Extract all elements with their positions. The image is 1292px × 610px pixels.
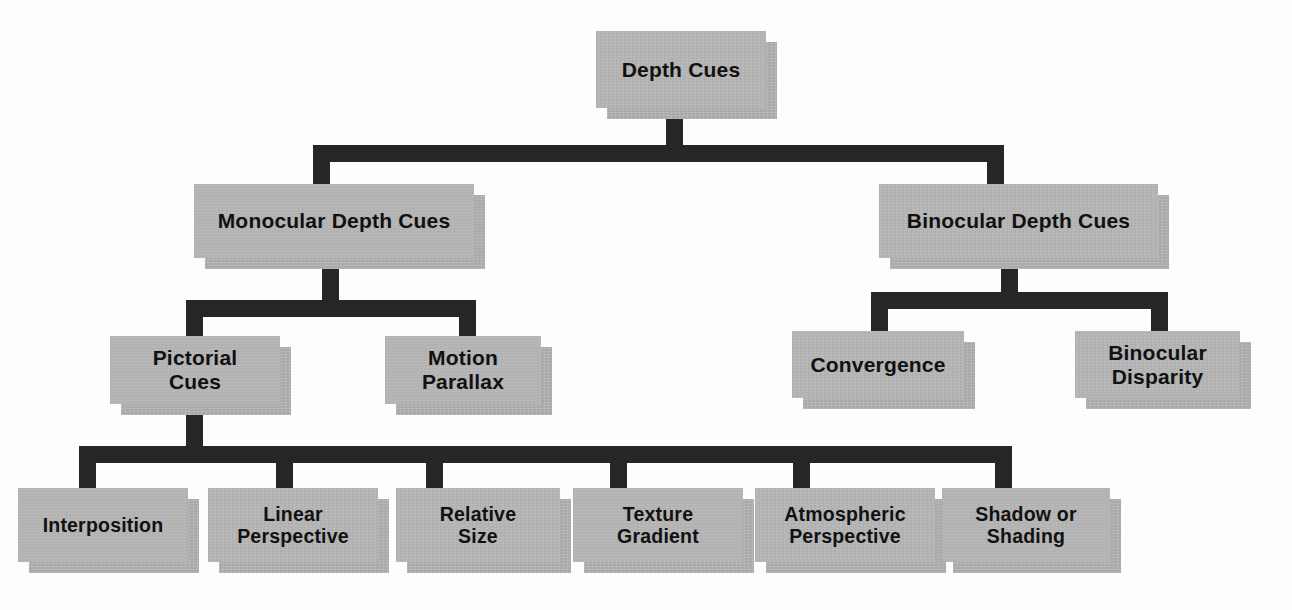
node-binocular-disparity[interactable]: Binocular Disparity [1075, 331, 1240, 398]
node-label: Monocular Depth Cues [212, 209, 457, 233]
node-face: Binocular Disparity [1075, 331, 1240, 398]
connector-binocular-bus [871, 292, 1168, 309]
node-label: Relative Size [434, 503, 522, 547]
node-face: Depth Cues [596, 31, 766, 108]
node-pictorial-cues[interactable]: Pictorial Cues [110, 336, 280, 404]
node-face: Atmospheric Perspective [755, 488, 935, 562]
node-face: Texture Gradient [573, 488, 743, 562]
node-label: Motion Parallax [416, 346, 510, 393]
node-face: Motion Parallax [385, 336, 541, 404]
node-label: Binocular Depth Cues [901, 209, 1136, 233]
connector-level1-bus [313, 145, 1004, 162]
node-interposition[interactable]: Interposition [18, 488, 188, 562]
connector-pictorial-to-atmospheric-perspective [793, 446, 810, 488]
node-motion-parallax[interactable]: Motion Parallax [385, 336, 541, 404]
connector-pictorial-to-linear-perspective [276, 446, 293, 488]
node-face: Relative Size [396, 488, 560, 562]
node-relative-size[interactable]: Relative Size [396, 488, 560, 562]
node-linear-perspective[interactable]: Linear Perspective [208, 488, 378, 562]
node-depth-cues[interactable]: Depth Cues [596, 31, 766, 108]
node-face: Binocular Depth Cues [879, 184, 1158, 258]
node-face: Convergence [792, 331, 964, 398]
node-label: Pictorial Cues [147, 346, 244, 393]
node-face: Linear Perspective [208, 488, 378, 562]
node-face: Interposition [18, 488, 188, 562]
node-face: Monocular Depth Cues [194, 184, 474, 258]
node-convergence[interactable]: Convergence [792, 331, 964, 398]
depth-cues-diagram: Depth Cues Monocular Depth Cues Binocula… [0, 0, 1292, 610]
connector-pictorial-to-texture-gradient [610, 446, 627, 488]
node-atmospheric-perspective[interactable]: Atmospheric Perspective [755, 488, 935, 562]
node-label: Shadow or Shading [969, 503, 1082, 547]
node-label: Convergence [804, 353, 951, 377]
connector-pictorial-to-shadow-or-shading [995, 446, 1012, 488]
node-label: Interposition [37, 514, 170, 536]
node-label: Texture Gradient [611, 503, 705, 547]
node-label: Depth Cues [616, 58, 747, 82]
node-texture-gradient[interactable]: Texture Gradient [573, 488, 743, 562]
node-label: Binocular Disparity [1102, 341, 1213, 388]
node-face: Shadow or Shading [942, 488, 1110, 562]
node-label: Linear Perspective [231, 503, 355, 547]
node-label: Atmospheric Perspective [778, 503, 911, 547]
connector-pictorial-bus [79, 446, 1012, 463]
connector-pictorial-to-relative-size [426, 446, 443, 488]
connector-pictorial-to-interposition [79, 446, 96, 488]
connector-monocular-bus [186, 300, 476, 317]
node-face: Pictorial Cues [110, 336, 280, 404]
node-shadow-or-shading[interactable]: Shadow or Shading [942, 488, 1110, 562]
node-monocular-depth-cues[interactable]: Monocular Depth Cues [194, 184, 474, 258]
node-binocular-depth-cues[interactable]: Binocular Depth Cues [879, 184, 1158, 258]
